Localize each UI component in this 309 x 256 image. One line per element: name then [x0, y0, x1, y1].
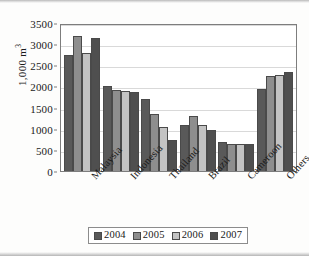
- y-tick-label: 0: [47, 167, 53, 178]
- bar-group-malaysia: [64, 25, 100, 171]
- y-tick-label: 3000: [30, 40, 53, 51]
- bar-group-cameroon: [218, 25, 254, 171]
- legend-entry-2004: 2004: [94, 230, 126, 241]
- y-tick-mark: [54, 66, 57, 67]
- legend-label-2005: 2005: [143, 230, 165, 241]
- y-axis-labels: 0500100015002000250030003500: [18, 24, 57, 172]
- legend-label-2007: 2007: [220, 230, 242, 241]
- legend-swatch-2006: [172, 232, 180, 240]
- y-tick-mark: [54, 87, 57, 88]
- bar-malaysia-2005: [73, 36, 82, 171]
- plot-area: [60, 24, 297, 172]
- bar-indonesia-2006: [121, 91, 130, 171]
- scan-edge-top: [0, 0, 309, 3]
- y-tick-label: 1000: [30, 124, 53, 135]
- legend-swatch-2007: [210, 232, 218, 240]
- legend-entry-2007: 2007: [210, 230, 242, 241]
- bar-cameroon-2006: [236, 144, 245, 171]
- bar-chart-figure: 1,000 m3 0500100015002000250030003500 Ma…: [0, 0, 309, 256]
- legend-swatch-2005: [133, 232, 141, 240]
- bar-others-2006: [275, 75, 284, 171]
- legend-entry-2005: 2005: [133, 230, 165, 241]
- y-tick-mark: [54, 45, 57, 46]
- legend-swatch-2004: [94, 232, 102, 240]
- bar-malaysia-2004: [64, 55, 73, 171]
- y-tick-label: 2500: [30, 61, 53, 72]
- bars-layer: [61, 25, 296, 171]
- y-tick-mark: [54, 172, 57, 173]
- bar-others-2007: [284, 72, 293, 171]
- legend-label-2004: 2004: [104, 230, 126, 241]
- y-tick-mark: [54, 150, 57, 151]
- y-tick-label: 1500: [30, 103, 53, 114]
- scan-edge-bottom: [0, 252, 309, 256]
- x-axis-labels: MalaysiaIndonesiaThailandBrazilCameroonO…: [60, 174, 297, 224]
- y-tick-label: 2000: [30, 82, 53, 93]
- bar-brazil-2006: [198, 125, 207, 171]
- bar-indonesia-2007: [130, 92, 139, 171]
- y-tick-mark: [54, 108, 57, 109]
- chart-legend: 2004200520062007: [88, 227, 248, 244]
- legend-label-2006: 2006: [182, 230, 204, 241]
- bar-malaysia-2007: [91, 38, 100, 171]
- y-tick-label: 3500: [30, 19, 53, 30]
- y-tick-mark: [54, 24, 57, 25]
- y-tick-mark: [54, 129, 57, 130]
- bar-malaysia-2006: [82, 53, 91, 171]
- legend-entry-2006: 2006: [172, 230, 204, 241]
- y-tick-label: 500: [36, 145, 53, 156]
